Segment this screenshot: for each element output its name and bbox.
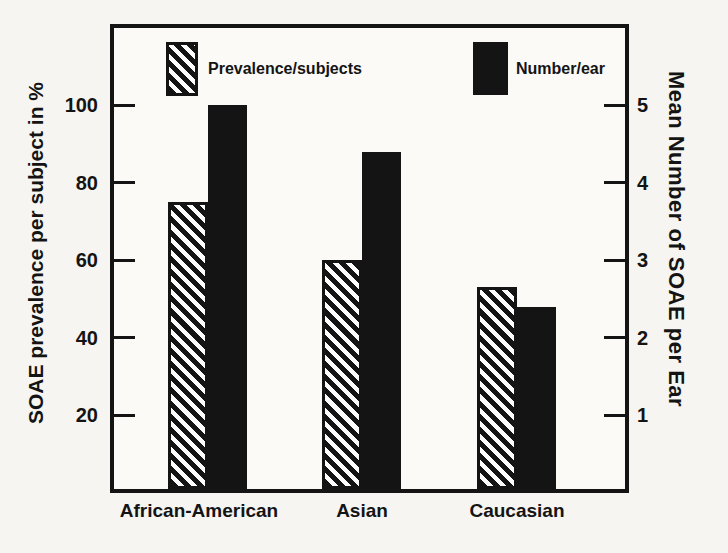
bar-prevalence-subjects-african-american xyxy=(168,202,208,489)
bar-number-ear-asian xyxy=(362,152,401,489)
bar-number-ear-african-american xyxy=(208,105,247,489)
legend-swatch-prevalence-subjects xyxy=(166,42,198,96)
right-axis-tick-4 xyxy=(604,181,625,184)
left-axis-tick-label-20: 20 xyxy=(40,405,98,425)
bar-prevalence-subjects-caucasian xyxy=(477,287,517,489)
legend-label-number-ear: Number/ear xyxy=(516,61,605,77)
category-label-african-american: African-American xyxy=(120,501,278,521)
left-axis-tick-label-100: 100 xyxy=(40,95,98,115)
right-axis-tick-2 xyxy=(604,336,625,339)
soae-bar-chart-figure: SOAE prevalence per subject in % Mean Nu… xyxy=(0,0,728,553)
bar-number-ear-caucasian xyxy=(517,307,556,489)
left-axis-tick-label-80: 80 xyxy=(40,173,98,193)
legend-swatch-number-ear xyxy=(473,42,508,95)
right-axis-tick-1 xyxy=(604,414,625,417)
right-axis-tick-3 xyxy=(604,259,625,262)
left-axis-tick-40 xyxy=(114,336,135,339)
legend-label-prevalence-subjects: Prevalence/subjects xyxy=(208,61,362,77)
left-axis-tick-label-40: 40 xyxy=(40,328,98,348)
right-axis-tick-label-1: 1 xyxy=(637,405,648,425)
right-axis-tick-label-3: 3 xyxy=(637,250,648,270)
left-axis-tick-100 xyxy=(114,104,135,107)
left-axis-tick-80 xyxy=(114,181,135,184)
right-axis-tick-label-2: 2 xyxy=(637,328,648,348)
left-axis-tick-label-60: 60 xyxy=(40,250,98,270)
category-label-asian: Asian xyxy=(336,501,388,521)
bar-prevalence-subjects-asian xyxy=(322,260,362,489)
left-axis-tick-20 xyxy=(114,414,135,417)
right-axis-tick-5 xyxy=(604,104,625,107)
left-axis-tick-60 xyxy=(114,259,135,262)
category-label-caucasian: Caucasian xyxy=(469,501,564,521)
right-axis-tick-label-4: 4 xyxy=(637,173,648,193)
right-axis-tick-label-5: 5 xyxy=(637,95,648,115)
right-axis-title: Mean Number of SOAE per Ear xyxy=(663,71,689,407)
